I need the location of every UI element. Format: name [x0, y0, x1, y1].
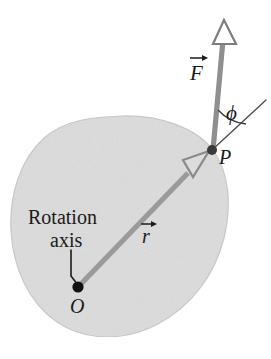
radius-label-glyph: r — [142, 225, 150, 247]
origin-label: O — [70, 295, 84, 317]
torque-diagram: Rotation axis O P F r ϕ — [0, 0, 271, 359]
origin-point — [72, 281, 83, 292]
force-label-vector-arrowtip — [202, 55, 208, 61]
point-p-label: P — [218, 146, 231, 168]
application-point — [207, 145, 217, 155]
phi-angle-label: ϕ — [226, 101, 237, 125]
rotation-axis-label-line2: axis — [50, 229, 82, 251]
force-label-glyph: F — [189, 61, 203, 85]
force-vector-arrowhead — [213, 20, 236, 44]
radial-extension-line — [212, 100, 266, 150]
force-vector-label: F — [189, 55, 208, 85]
force-vector-shaft — [213, 40, 223, 150]
rotation-axis-label-line1: Rotation — [28, 206, 97, 228]
